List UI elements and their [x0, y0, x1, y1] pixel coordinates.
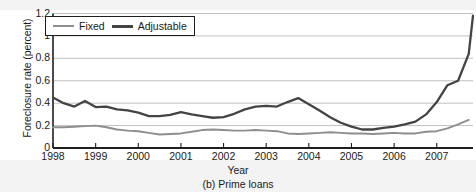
- x-tick-label-1999: 1999: [73, 150, 119, 162]
- legend-item-fixed: Fixed: [53, 20, 105, 32]
- x-axis-label: Year: [0, 164, 476, 176]
- figure-caption: (b) Prime loans: [0, 178, 476, 190]
- x-tick-label-2001: 2001: [158, 150, 204, 162]
- x-tick-label-2003: 2003: [243, 150, 289, 162]
- series-line-fixed: [53, 120, 469, 135]
- chart-legend: Fixed Adjustable: [45, 16, 195, 36]
- x-tick-label-2002: 2002: [201, 150, 247, 162]
- x-tick-label-1998: 1998: [30, 150, 76, 162]
- figure-prime-loans: Foreclosure rate (percent) 00.20.40.60.8…: [0, 0, 476, 192]
- legend-label-fixed: Fixed: [79, 20, 105, 32]
- legend-line-adjustable-icon: [112, 25, 133, 28]
- legend-item-adjustable: Adjustable: [112, 20, 187, 32]
- x-tick-label-2007: 2007: [414, 150, 460, 162]
- legend-label-adjustable: Adjustable: [138, 20, 187, 32]
- x-tick-label-2004: 2004: [286, 150, 332, 162]
- x-tick-label-2006: 2006: [371, 150, 417, 162]
- legend-line-fixed-icon: [53, 25, 74, 27]
- x-tick-label-2000: 2000: [115, 150, 161, 162]
- x-tick-label-2005: 2005: [328, 150, 374, 162]
